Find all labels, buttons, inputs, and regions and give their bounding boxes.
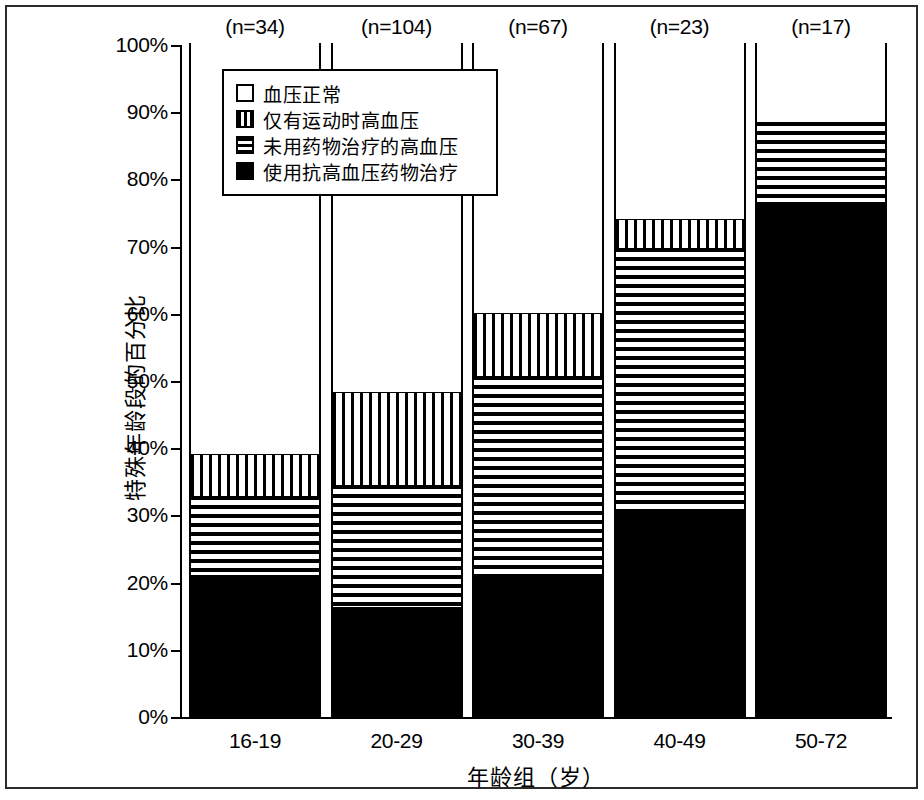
group-size-label: (n=23)	[650, 15, 710, 39]
y-axis-tick-label: 0%	[138, 705, 168, 729]
bar-segment-horizontal-lines	[757, 122, 885, 202]
group-size-label: (n=67)	[508, 15, 568, 39]
legend-item[interactable]: 仅有运动时高血压	[236, 106, 486, 132]
legend-swatch-white-icon	[236, 84, 254, 102]
legend-item-label: 使用抗高血压药物治疗	[263, 158, 458, 185]
bar-segment-solid-black	[474, 574, 602, 715]
x-axis-title: 年龄组（岁）	[180, 759, 892, 791]
legend-item-label: 未用药物治疗的高血压	[263, 132, 458, 159]
y-axis-tick-label: 40%	[127, 436, 168, 460]
y-axis-tick	[171, 179, 180, 181]
group-size-label: (n=34)	[225, 15, 285, 39]
bar-segment-vertical-lines	[333, 392, 461, 484]
bar-segment-solid-black	[191, 575, 319, 715]
y-axis-tick-label: 100%	[115, 33, 168, 57]
bar-segment-white	[757, 43, 885, 122]
bar-segment-solid-black	[757, 202, 885, 715]
y-axis-tick-label: 10%	[127, 638, 168, 662]
figure-frame: 特殊年龄段的百分比 100%90%80%70%60%50%40%30%20%10…	[5, 5, 918, 789]
legend-item[interactable]: 血压正常	[236, 80, 486, 106]
legend-swatch-horiz-icon	[236, 136, 254, 154]
group-size-label: (n=104)	[361, 15, 432, 39]
x-axis-tick-label: 30-39	[512, 729, 564, 753]
y-axis-tick-label: 80%	[127, 167, 168, 191]
y-axis-tick	[171, 112, 180, 114]
x-axis-tick-label: 16-19	[229, 729, 281, 753]
y-axis-tick-label: 60%	[127, 302, 168, 326]
y-axis-tick-label: 20%	[127, 571, 168, 595]
y-axis-tick	[171, 515, 180, 517]
legend-swatch-black-icon	[236, 162, 254, 180]
y-axis-tick-label: 50%	[127, 369, 168, 393]
legend-item[interactable]: 使用抗高血压药物治疗	[236, 158, 486, 184]
y-axis-tick-label: 90%	[127, 100, 168, 124]
bar-segment-horizontal-lines	[474, 376, 602, 574]
y-axis-tick-label: 30%	[127, 503, 168, 527]
bar-segment-vertical-lines	[191, 454, 319, 496]
y-axis-tick	[171, 45, 180, 47]
y-axis-tick	[171, 448, 180, 450]
bar-segment-horizontal-lines	[333, 485, 461, 608]
bar-segment-solid-black	[616, 511, 744, 715]
bar-segment-vertical-lines	[616, 219, 744, 248]
legend-item-label: 仅有运动时高血压	[263, 106, 419, 133]
bar-segment-horizontal-lines	[616, 248, 744, 511]
legend-item-label: 血压正常	[263, 80, 341, 107]
legend: 血压正常仅有运动时高血压未用药物治疗的高血压使用抗高血压药物治疗	[222, 69, 498, 196]
x-axis-tick-label: 50-72	[795, 729, 847, 753]
y-axis-tick-label: 70%	[127, 235, 168, 259]
x-axis-line	[180, 717, 892, 719]
y-axis-tick	[171, 314, 180, 316]
bar-50-72[interactable]	[755, 43, 887, 717]
bar-segment-horizontal-lines	[191, 496, 319, 575]
legend-swatch-vert-icon	[236, 110, 254, 128]
y-axis-tick	[171, 247, 180, 249]
bar-segment-white	[616, 43, 744, 219]
bar-segment-vertical-lines	[474, 313, 602, 375]
legend-item[interactable]: 未用药物治疗的高血压	[236, 132, 486, 158]
y-axis-line	[180, 45, 182, 719]
x-axis-tick-label: 40-49	[653, 729, 705, 753]
y-axis-tick	[171, 583, 180, 585]
x-axis-tick-label: 20-29	[370, 729, 422, 753]
bar-40-49[interactable]	[614, 43, 746, 717]
group-size-label: (n=17)	[791, 15, 851, 39]
y-axis-tick	[171, 717, 180, 719]
y-axis-tick	[171, 381, 180, 383]
bar-segment-solid-black	[333, 607, 461, 715]
y-axis-tick	[171, 650, 180, 652]
